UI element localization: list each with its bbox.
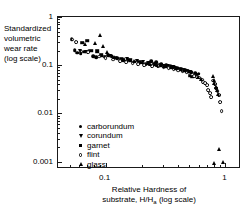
triangle-up-marker [98, 33, 102, 37]
y-axis-title: Standardized volumetric wear rate (log s… [4, 24, 56, 64]
circle-open-marker [218, 100, 222, 104]
triangle-up-marker [199, 77, 203, 81]
x-tick-minor [142, 165, 143, 167]
data-point-flint [86, 50, 90, 54]
y-tick-minor [58, 99, 60, 100]
data-point-flint [104, 57, 108, 61]
data-point-glass [212, 161, 216, 165]
y-tick-minor [58, 51, 60, 52]
y-tick-major [58, 113, 62, 114]
y-tick-label: 0.001 [0, 156, 53, 165]
y-tick-minor [58, 84, 60, 85]
legend-label: carborundum [87, 122, 134, 131]
y-axis-title-line-1: Standardized [4, 24, 56, 34]
data-point-flint [220, 109, 224, 113]
triangle-up-marker [105, 50, 109, 54]
y-tick-minor [58, 147, 60, 148]
x-tick-minor [214, 165, 215, 167]
data-point-glass [98, 33, 102, 37]
y-tick-minor [58, 28, 60, 29]
y-tick-minor [58, 116, 60, 117]
data-point-glass [216, 92, 220, 96]
y-tick-minor [58, 42, 60, 43]
y-tick-minor [58, 24, 60, 25]
legend-item-carborundum: carborundum [74, 122, 134, 131]
legend-item-garnet: garnet [74, 141, 134, 150]
y-tick-minor [58, 133, 60, 134]
triangle-up-marker [148, 62, 152, 66]
data-point-glass [93, 41, 97, 45]
triangle-up-marker [174, 66, 178, 70]
triangle-up-marker [217, 147, 221, 151]
circle-open-marker [75, 40, 79, 44]
legend-marker-circle-open [74, 153, 87, 157]
data-point-glass [148, 62, 152, 66]
y-tick-minor [58, 36, 60, 37]
triangle-up-marker [216, 92, 220, 96]
scatter-chart: Standardized volumetric wear rate (log s… [0, 0, 248, 213]
y-tick-minor [58, 70, 60, 71]
circle-open-marker [80, 50, 84, 54]
triangle-up-marker [132, 59, 136, 63]
y-tick-major [58, 17, 62, 18]
x-tick-label: 1 [222, 173, 226, 182]
data-point-flint [80, 50, 84, 54]
square-filled-marker [95, 49, 99, 53]
x-axis-title-line-2: substrate, H/Ha (log scale) [66, 195, 232, 205]
triangle-up-icon [79, 162, 83, 166]
data-point-glass [112, 55, 116, 59]
circle-open-marker [97, 55, 101, 59]
x-tick-minor [163, 165, 164, 167]
y-tick-minor [58, 139, 60, 140]
data-point-glass [105, 50, 109, 54]
x-tick-minor [70, 165, 71, 167]
y-tick-label: 0.1 [0, 60, 53, 69]
triangle-down-icon [79, 134, 83, 138]
x-axis-title: Relative Hardness of substrate, H/Ha (lo… [66, 185, 232, 205]
legend-item-flint: flint [74, 150, 134, 159]
y-tick-label: 0.01 [0, 108, 53, 117]
data-point-glass [174, 66, 178, 70]
y-tick-minor [58, 121, 60, 122]
data-point-glass [217, 147, 221, 151]
data-point-glass [170, 65, 174, 69]
x-axis-title-pre: substrate, H/H [102, 195, 153, 204]
y-tick-minor [58, 67, 60, 68]
data-point-glass [199, 77, 203, 81]
legend-marker-circle-filled [74, 125, 87, 129]
circle-open-marker [220, 109, 224, 113]
x-axis-title-subscript: a [153, 199, 156, 205]
data-point-glass [182, 68, 186, 72]
legend-label: garnet [87, 141, 110, 150]
circle-open-marker [205, 84, 209, 88]
y-tick-minor [58, 124, 60, 125]
legend-marker-square-filled [74, 144, 87, 148]
circle-open-marker [209, 95, 213, 99]
square-filled-icon [79, 144, 83, 148]
circle-open-icon [79, 153, 83, 157]
y-tick-major [58, 65, 62, 66]
x-axis-title-line-1: Relative Hardness of [66, 185, 232, 195]
triangle-up-marker [101, 44, 105, 48]
y-axis-title-line-2: volumetric [4, 34, 56, 44]
legend-label: flint [87, 150, 99, 159]
data-point-flint [209, 95, 213, 99]
data-point-glass [83, 42, 87, 46]
legend-label: corundum [87, 131, 123, 140]
triangle-up-marker [162, 64, 166, 68]
circle-filled-icon [79, 125, 83, 129]
triangle-up-marker [93, 41, 97, 45]
x-tick-minor [220, 165, 221, 167]
x-axis-title-post: (log scale) [157, 195, 196, 204]
triangle-up-marker [112, 55, 116, 59]
legend-item-corundum: corundum [74, 131, 134, 140]
data-point-garnet [90, 49, 94, 53]
triangle-up-marker [122, 57, 126, 61]
y-tick-minor [58, 76, 60, 77]
data-point-flint [97, 55, 101, 59]
data-point-garnet [95, 49, 99, 53]
y-tick-minor [58, 118, 60, 119]
data-point-glass [155, 63, 159, 67]
x-tick-minor [199, 165, 200, 167]
triangle-up-marker [212, 161, 216, 165]
